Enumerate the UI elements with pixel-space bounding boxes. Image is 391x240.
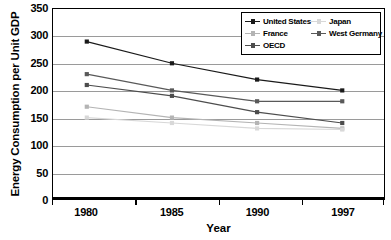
data-point-marker — [85, 115, 89, 119]
series-france — [85, 105, 345, 131]
data-point-marker — [340, 99, 344, 103]
y-tick-label: 0 — [16, 194, 48, 206]
data-point-marker — [85, 105, 89, 109]
y-tick-label: 300 — [16, 29, 48, 41]
series-west-germany — [85, 72, 345, 103]
x-tick-mark — [52, 200, 53, 205]
data-point-marker — [85, 72, 89, 76]
legend-label: West Germany — [329, 29, 382, 39]
data-point-marker — [170, 61, 174, 65]
data-point-marker — [170, 115, 174, 119]
y-axis-tick-labels: 050100150200250300350 — [16, 0, 48, 240]
series-line — [87, 118, 342, 130]
legend-item-west-germany[interactable]: West Germany — [311, 28, 383, 39]
legend-swatch-icon — [245, 17, 260, 26]
y-tick-label: 250 — [16, 57, 48, 69]
x-tick-label: 1980 — [56, 206, 116, 218]
chart-legend: United StatesJapanFranceWest GermanyOECD — [241, 12, 381, 55]
data-point-marker — [340, 88, 344, 92]
legend-item-japan[interactable]: Japan — [311, 16, 383, 27]
line-chart: Energy Consumption per Unit GDP 05010015… — [0, 0, 391, 240]
x-tick-label: 1985 — [142, 206, 202, 218]
data-point-marker — [170, 94, 174, 98]
series-line — [87, 74, 342, 101]
data-point-marker — [85, 83, 89, 87]
data-point-marker — [255, 77, 259, 81]
legend-swatch-icon — [311, 29, 326, 38]
data-point-marker — [255, 110, 259, 114]
legend-swatch-icon — [311, 17, 326, 26]
legend-label: France — [263, 29, 288, 39]
legend-item-united-states[interactable]: United States — [245, 16, 311, 27]
y-tick-label: 350 — [16, 2, 48, 14]
legend-label: OECD — [263, 41, 285, 51]
legend-item-france[interactable]: France — [245, 28, 311, 39]
data-point-marker — [255, 99, 259, 103]
data-point-marker — [255, 126, 259, 130]
x-axis-tick-labels: 1980198519901997 — [52, 200, 385, 222]
series-line — [87, 85, 342, 123]
legend-label: Japan — [329, 17, 351, 27]
x-tick-label: 1997 — [313, 206, 373, 218]
x-tick-mark — [135, 200, 136, 205]
legend-swatch-icon — [245, 29, 260, 38]
y-tick-label: 200 — [16, 84, 48, 96]
data-point-marker — [85, 39, 89, 43]
data-point-marker — [170, 121, 174, 125]
y-tick-label: 150 — [16, 112, 48, 124]
legend-label: United States — [263, 17, 311, 27]
x-tick-mark — [219, 200, 220, 205]
series-oecd — [85, 83, 345, 125]
x-tick-mark — [383, 200, 384, 205]
y-tick-label: 50 — [16, 167, 48, 179]
x-axis-title: Year — [52, 222, 385, 234]
data-point-marker — [170, 88, 174, 92]
x-tick-mark — [302, 200, 303, 205]
legend-item-oecd[interactable]: OECD — [245, 40, 311, 51]
data-point-marker — [255, 121, 259, 125]
data-point-marker — [340, 121, 344, 125]
legend-swatch-icon — [245, 41, 260, 50]
data-point-marker — [340, 127, 344, 131]
y-tick-label: 100 — [16, 139, 48, 151]
x-tick-label: 1990 — [227, 206, 287, 218]
